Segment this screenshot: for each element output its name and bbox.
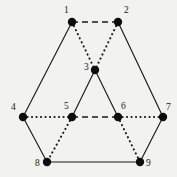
vertex-node-8 <box>43 158 51 166</box>
vertex-label-7: 7 <box>166 102 171 112</box>
vertex-node-5 <box>68 113 76 121</box>
edge-6-9 <box>118 117 140 162</box>
vertex-label-4: 4 <box>11 102 16 112</box>
edge-4-8 <box>23 117 47 162</box>
vertex-label-6: 6 <box>121 101 126 111</box>
vertex-label-1: 1 <box>64 5 69 15</box>
vertex-node-3 <box>91 66 99 74</box>
vertex-label-layer: 123456789 <box>11 5 171 168</box>
edge-3-6 <box>95 70 118 117</box>
edge-layer <box>23 22 163 162</box>
vertex-label-3: 3 <box>84 62 89 72</box>
vertex-node-7 <box>159 113 167 121</box>
vertex-node-4 <box>19 113 27 121</box>
vertex-node-1 <box>68 18 76 26</box>
edge-7-9 <box>140 117 163 162</box>
edge-5-8 <box>47 117 72 162</box>
figure-canvas: 123456789 <box>0 0 177 177</box>
vertex-label-8: 8 <box>35 158 40 168</box>
vertex-layer <box>19 18 167 166</box>
graph-diagram: 123456789 <box>0 0 177 177</box>
vertex-label-9: 9 <box>146 158 151 168</box>
vertex-node-2 <box>114 18 122 26</box>
vertex-label-2: 2 <box>124 5 129 15</box>
vertex-node-9 <box>136 158 144 166</box>
edge-2-3 <box>95 22 118 70</box>
vertex-node-6 <box>114 113 122 121</box>
edge-3-5 <box>72 70 95 117</box>
vertex-label-5: 5 <box>64 101 69 111</box>
